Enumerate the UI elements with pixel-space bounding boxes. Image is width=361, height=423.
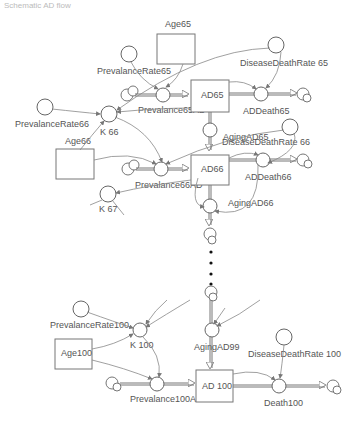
flow-agingad99[interactable]: AgingAD99 (194, 323, 240, 352)
svg-text:Prevalance100AD: Prevalance100AD (130, 394, 203, 404)
svg-text:K 67: K 67 (99, 204, 118, 214)
cloud-sink-aging66 (204, 228, 216, 244)
svg-text:AgingAD66: AgingAD66 (228, 198, 274, 208)
stock-ad65[interactable]: AD65 (191, 80, 229, 112)
svg-text:Age65: Age65 (165, 19, 191, 29)
flow-prevalance100ad[interactable]: Prevalance100AD (130, 377, 203, 404)
caption: Schematic AD flow (4, 1, 71, 10)
svg-text:DiseaseDeathRate 65: DiseaseDeathRate 65 (240, 58, 328, 68)
svg-text:Death100: Death100 (264, 398, 303, 408)
converter-k66[interactable]: K 66 (100, 106, 119, 137)
cloud-sink-66 (297, 154, 312, 168)
stock-age100[interactable]: Age100 (55, 339, 92, 369)
converter-k100[interactable]: K 100 (130, 323, 154, 350)
stock-age66[interactable]: Age66 (56, 136, 94, 179)
stock-ad100[interactable]: AD 100 (196, 370, 233, 402)
svg-text:K 66: K 66 (100, 127, 119, 137)
stock-ad66[interactable]: AD66 (191, 155, 229, 185)
svg-text:ADDeath65: ADDeath65 (243, 106, 290, 116)
converter-prevalance-rate-100[interactable]: PrevalanceRate100 (50, 301, 129, 330)
stock-age65[interactable]: Age65 (157, 19, 195, 64)
svg-text:AD 100: AD 100 (202, 381, 232, 391)
svg-text:DiseaseDeathRate 100: DiseaseDeathRate 100 (248, 349, 341, 359)
flow-death100[interactable]: Death100 (264, 379, 303, 408)
svg-text:ADDeath66: ADDeath66 (245, 172, 292, 182)
svg-text:PrevalanceRate100: PrevalanceRate100 (50, 320, 129, 330)
ellipsis-dots (209, 250, 212, 285)
cloud-source-aging99 (205, 286, 217, 301)
converter-prevalance-rate-66[interactable]: PrevalanceRate66 (15, 99, 89, 129)
cloud-source-100 (106, 377, 121, 391)
converter-disease-death-rate-100[interactable]: DiseaseDeathRate 100 (248, 329, 341, 359)
svg-text:Age100: Age100 (61, 348, 92, 358)
svg-text:AD65: AD65 (201, 90, 224, 100)
svg-text:AgingAD99: AgingAD99 (194, 342, 240, 352)
cloud-sink-100 (327, 380, 341, 394)
cloud-sink-65 (297, 88, 311, 102)
svg-text:AD66: AD66 (201, 164, 224, 174)
svg-text:PrevalanceRate66: PrevalanceRate66 (15, 119, 89, 129)
stock-flow-diagram: Schematic AD flow Age65 PrevalanceRate65… (0, 0, 361, 423)
converter-disease-death-rate-65[interactable]: DiseaseDeathRate 65 (240, 37, 328, 68)
flow-addeath66[interactable]: ADDeath66 (245, 153, 292, 182)
flow-addeath65[interactable]: ADDeath65 (243, 87, 290, 116)
